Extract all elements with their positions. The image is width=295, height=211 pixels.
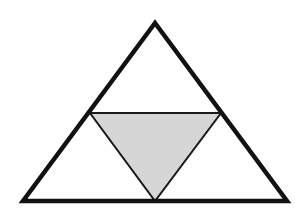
triangle-diagram: [0, 0, 295, 211]
diagram-canvas: [0, 0, 295, 211]
